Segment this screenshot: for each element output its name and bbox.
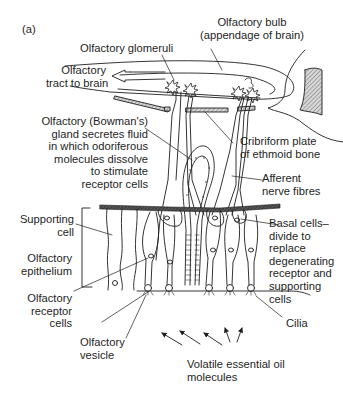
label-olfactory-glomeruli: Olfactory glomeruli — [80, 42, 173, 55]
label-supporting-cell: Supporting cell — [14, 213, 74, 238]
label-line: Olfactory bulb — [200, 16, 304, 29]
label-line: in which odoriferous — [28, 140, 148, 153]
label-line: replace — [269, 242, 334, 255]
cilia — [143, 292, 256, 295]
label-basal-cells: Basal cells– divide to replace degenerat… — [269, 217, 334, 305]
olfactory-tract-arrow — [112, 70, 165, 82]
label-line: Cribriform plate — [240, 135, 320, 148]
label-line: receptor cells — [28, 178, 148, 191]
label-cilia: Cilia — [286, 317, 308, 330]
label-line: cells — [10, 317, 72, 330]
label-line: Basal cells– — [269, 217, 334, 230]
label-line: Olfactory glomeruli — [80, 42, 173, 55]
label-volatile-molecules: Volatile essential oil molecules — [187, 358, 285, 383]
panel-label: (a) — [22, 23, 36, 36]
label-line: gland secretes fluid — [28, 128, 148, 141]
label-olfactory-epithelium: Olfactory epithelium — [10, 252, 72, 277]
label-cribriform-plate: Cribriform plate of ethmoid bone — [240, 135, 320, 160]
label-bowmans-gland: Olfactory (Bowman's) gland secretes flui… — [28, 115, 148, 191]
label-line: cell — [14, 226, 74, 239]
label-olfactory-tract: Olfactory tract to brain — [46, 64, 106, 89]
supporting-cells — [107, 209, 138, 290]
label-line: receptor — [10, 305, 72, 318]
label-line: molecules — [187, 371, 285, 384]
label-line: tract to brain — [46, 77, 106, 90]
label-line: supporting — [269, 280, 334, 293]
molecule-arrows — [162, 328, 242, 345]
label-line: molecules dissolve — [28, 153, 148, 166]
basement-membrane — [100, 204, 280, 212]
label-line: divide to — [269, 230, 334, 243]
label-afferent-nerve: Afferent nerve fibres — [262, 172, 320, 197]
nasal-bone — [268, 50, 343, 142]
label-olfactory-receptor-cells: Olfactory receptor cells — [10, 292, 72, 330]
label-line: Olfactory — [80, 336, 125, 349]
label-line: Volatile essential oil — [187, 358, 285, 371]
label-line: Olfactory — [10, 292, 72, 305]
nerve-fibres — [156, 92, 252, 260]
label-line: cells — [269, 293, 334, 306]
label-line: Olfactory — [46, 64, 106, 77]
label-line: Cilia — [286, 317, 308, 330]
epithelium-bracket — [82, 208, 92, 287]
label-line: epithelium — [10, 265, 72, 278]
label-line: Olfactory — [10, 252, 72, 265]
olfactory-diagram — [0, 0, 343, 398]
label-line: receptor and — [269, 267, 334, 280]
label-line: of ethmoid bone — [240, 148, 320, 161]
label-line: to stimulate — [28, 165, 148, 178]
label-line: Olfactory (Bowman's) — [28, 115, 148, 128]
label-line: (appendage of brain) — [200, 29, 304, 42]
label-olfactory-bulb: Olfactory bulb (appendage of brain) — [200, 16, 304, 41]
label-line: vesicle — [80, 349, 125, 362]
label-line: degenerating — [269, 255, 334, 268]
label-olfactory-vesicle: Olfactory vesicle — [80, 336, 125, 361]
label-line: nerve fibres — [262, 185, 320, 198]
label-line: Supporting — [14, 213, 74, 226]
label-line: Afferent — [262, 172, 320, 185]
